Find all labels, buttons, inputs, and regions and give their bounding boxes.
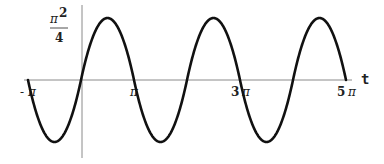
y-tick-label-pi-squared-over-4: π 2 4 [49, 6, 68, 45]
x-tick-5pi: 5 π [337, 85, 357, 99]
svg-text:3: 3 [231, 85, 239, 99]
svg-text:π: π [347, 85, 357, 99]
svg-text:π: π [49, 12, 59, 26]
chart: π 2 4 - π π 3 π 5 π t [0, 0, 384, 164]
svg-text:5: 5 [337, 85, 345, 99]
svg-text:-: - [20, 85, 24, 99]
x-axis-label: t [361, 71, 369, 87]
svg-text:4: 4 [55, 31, 63, 45]
svg-text:2: 2 [59, 6, 67, 20]
